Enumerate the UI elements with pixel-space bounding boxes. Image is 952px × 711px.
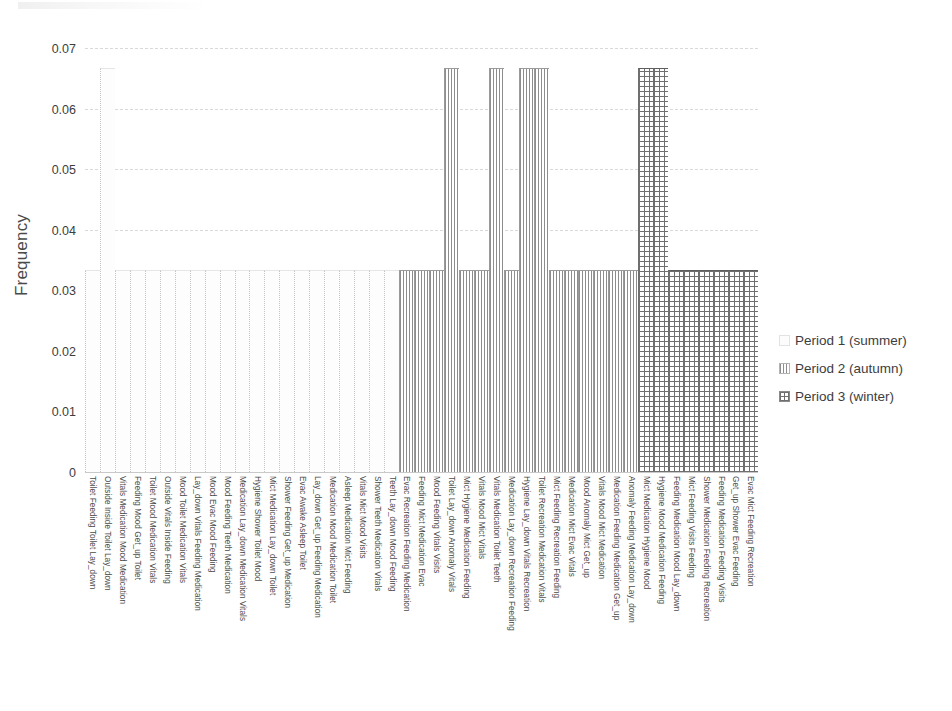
bar[interactable]: [534, 48, 549, 472]
x-tick-cell: Mood Evac Mood Feeding: [205, 474, 220, 699]
x-tick-cell: Medication Lay_down Recreation Feeding: [504, 474, 519, 699]
x-tick-cell: Vitals Medication Mood Medication: [115, 474, 130, 699]
bar-fill: [160, 270, 175, 472]
x-tick-label: Medication Feeding Medication Get_up: [611, 476, 620, 620]
x-tick-cell: Evac Recreation Feeding Medication: [399, 474, 414, 699]
bar-fill: [354, 270, 369, 472]
legend-item[interactable]: Period 1 (summer): [779, 326, 949, 354]
legend-item-label: Period 1 (summer): [795, 333, 907, 348]
bar[interactable]: [339, 48, 354, 472]
bar-fill: [683, 270, 698, 472]
x-tick-label: Mict Feeding Visits Feeding: [686, 476, 695, 578]
x-tick-cell: Shower Teeth Medication Vitals: [369, 474, 384, 699]
bar[interactable]: [489, 48, 504, 472]
bar[interactable]: [249, 48, 264, 472]
x-tick-label: Shower Medication Feeding Recreation: [701, 476, 710, 621]
bar[interactable]: [130, 48, 145, 472]
x-tick-label: Toilet Feeding Toilet Lay_down: [88, 476, 97, 589]
bar-fill: [653, 68, 668, 472]
x-tick-label: Mood Toilet Medication Vitals: [178, 476, 187, 583]
bar-fill: [339, 270, 354, 472]
bar-fill: [534, 68, 549, 472]
bar[interactable]: [429, 48, 444, 472]
bar[interactable]: [668, 48, 683, 472]
bar[interactable]: [698, 48, 713, 472]
y-tick-label: 0.01: [52, 405, 76, 419]
y-tick-label: 0.06: [52, 103, 76, 117]
x-tick-label: Vitals Mood Mict Medication: [596, 476, 605, 579]
x-tick-label: Anomaly Feeding Medication Lay_down: [626, 476, 635, 623]
bar[interactable]: [713, 48, 728, 472]
bar[interactable]: [264, 48, 279, 472]
x-tick-label: Medication Lay_down Recreation Feeding: [507, 476, 516, 631]
bar[interactable]: [474, 48, 489, 472]
bar[interactable]: [683, 48, 698, 472]
x-tick-label: Mood Feeding Teeth Medication: [223, 476, 232, 594]
bar[interactable]: [309, 48, 324, 472]
x-tick-cell: Mict Hygiene Medication Feeding: [459, 474, 474, 699]
bar[interactable]: [220, 48, 235, 472]
y-tick-label: 0: [69, 466, 76, 480]
x-tick-label: Evac Recreation Feeding Medication: [402, 476, 411, 612]
bar-fill: [399, 270, 414, 472]
x-tick-cell: Outside Vitals Inside Feeding: [160, 474, 175, 699]
x-tick-label: Evac Awake Asleep Toilet: [297, 476, 306, 570]
bar[interactable]: [100, 48, 115, 472]
x-tick-label: Toilet Mood Medication Vitals: [148, 476, 157, 583]
bar[interactable]: [519, 48, 534, 472]
bar[interactable]: [578, 48, 593, 472]
bar[interactable]: [190, 48, 205, 472]
bar[interactable]: [354, 48, 369, 472]
x-tick-cell: Mood Anomaly Mict Get_up: [578, 474, 593, 699]
bar[interactable]: [294, 48, 309, 472]
bar[interactable]: [145, 48, 160, 472]
bar[interactable]: [399, 48, 414, 472]
legend-item[interactable]: Period 2 (autumn): [779, 354, 949, 382]
bar[interactable]: [653, 48, 668, 472]
x-tick-cell: Mict Medication Lay_down Toilet: [264, 474, 279, 699]
x-tick-label: Hygiene Shower Toilet Mood: [252, 476, 261, 581]
bar-fill: [668, 270, 683, 472]
legend-item[interactable]: Period 3 (winter): [779, 382, 949, 410]
bar[interactable]: [160, 48, 175, 472]
bar[interactable]: [205, 48, 220, 472]
bar[interactable]: [279, 48, 294, 472]
bar[interactable]: [549, 48, 564, 472]
bar-fill: [474, 270, 489, 472]
bar[interactable]: [593, 48, 608, 472]
x-tick-cell: Outside Inside Toilet Lay_down: [100, 474, 115, 699]
bar[interactable]: [564, 48, 579, 472]
bar-fill: [578, 270, 593, 472]
bar[interactable]: [459, 48, 474, 472]
bar-fill: [130, 270, 145, 472]
x-tick-cell: Mood Feeding Teeth Medication: [220, 474, 235, 699]
bar[interactable]: [175, 48, 190, 472]
bar[interactable]: [608, 48, 623, 472]
bar[interactable]: [444, 48, 459, 472]
x-tick-cell: Evac Awake Asleep Toilet: [294, 474, 309, 699]
bar[interactable]: [384, 48, 399, 472]
bar[interactable]: [85, 48, 100, 472]
bar[interactable]: [504, 48, 519, 472]
bar[interactable]: [324, 48, 339, 472]
bar[interactable]: [623, 48, 638, 472]
x-tick-cell: Lay_down Get_up Feeding Medication: [309, 474, 324, 699]
x-tick-cell: Feeding Mict Medication Evac: [414, 474, 429, 699]
x-tick-label: Mict Feeding Recreation Feeding: [552, 476, 561, 598]
bar-fill: [249, 270, 264, 472]
bar[interactable]: [414, 48, 429, 472]
bar[interactable]: [235, 48, 250, 472]
x-tick-label: Feeding Mood Get_up Toilet: [133, 476, 142, 580]
x-tick-label: Toilet Lay_down Anomaly Vitals: [447, 476, 456, 592]
x-tick-label: Hygiene Lay_down Vitals Recreation: [522, 476, 531, 611]
bar[interactable]: [743, 48, 758, 472]
bar[interactable]: [638, 48, 653, 472]
bar[interactable]: [728, 48, 743, 472]
bar[interactable]: [369, 48, 384, 472]
bar[interactable]: [115, 48, 130, 472]
x-tick-cell: Medication Mict Evac Vitals: [564, 474, 579, 699]
x-tick-cell: Toilet Lay_down Anomaly Vitals: [444, 474, 459, 699]
x-tick-cell: Shower Medication Feeding Recreation: [698, 474, 713, 699]
x-tick-label: Outside Vitals Inside Feeding: [163, 476, 172, 584]
bar-fill: [190, 270, 205, 472]
